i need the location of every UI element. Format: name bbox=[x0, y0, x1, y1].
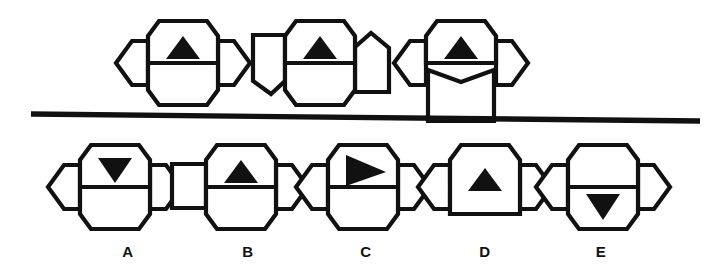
left-pentagon-shape bbox=[253, 35, 285, 94]
left-hexagon-shape bbox=[116, 41, 148, 85]
left-hexagon-shape bbox=[48, 165, 80, 209]
option-label-b: B bbox=[233, 243, 263, 261]
option-figure-e[interactable] bbox=[532, 138, 672, 238]
option-label-d: D bbox=[470, 243, 500, 261]
bottom-notched-rectangle-shape bbox=[428, 70, 494, 121]
option-label-e: E bbox=[586, 243, 616, 261]
left-square-shape bbox=[172, 164, 206, 208]
left-hexagon-shape bbox=[394, 41, 426, 85]
left-hexagon-shape bbox=[536, 165, 568, 209]
option-label-a: A bbox=[113, 243, 143, 261]
left-hexagon-shape bbox=[296, 165, 328, 209]
prompt-figure-3 bbox=[390, 14, 532, 132]
right-hexagon-shape bbox=[218, 41, 250, 85]
right-hexagon-shape bbox=[496, 41, 528, 85]
prompt-figure-2 bbox=[249, 14, 391, 126]
left-hexagon-shape bbox=[418, 165, 450, 209]
prompt-figure-1 bbox=[112, 14, 252, 126]
right-pentagon-shape bbox=[355, 33, 389, 92]
option-figure-c[interactable] bbox=[292, 138, 432, 238]
right-hexagon-shape bbox=[638, 165, 670, 209]
option-figure-b[interactable] bbox=[168, 138, 310, 238]
option-label-c: C bbox=[351, 243, 381, 261]
option-figure-a[interactable] bbox=[44, 138, 184, 238]
puzzle-canvas: A B C D E bbox=[0, 0, 721, 278]
